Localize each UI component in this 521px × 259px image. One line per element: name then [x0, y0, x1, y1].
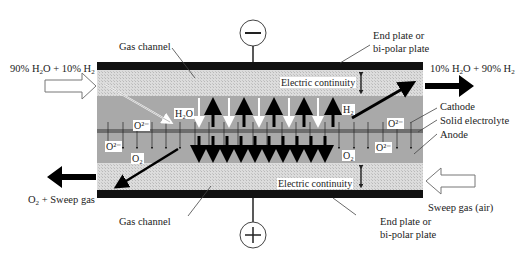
product-composition-label: 10% H2O + 90% H2: [430, 63, 515, 78]
sweep-gas-inlet-arrow-icon: [426, 168, 475, 194]
bottom-gas-channel: [97, 163, 423, 190]
end-plate-bottom-label-line1: End plate or: [380, 216, 431, 228]
o2-outlet-arrow-icon: [47, 166, 96, 188]
sweep-gas-text: + Sweep gas: [39, 194, 95, 205]
oxide-ion-tag-anode-right: O²⁻: [375, 142, 392, 153]
o2-text: O: [28, 194, 36, 205]
electric-continuity-top-label: Electric continuity: [280, 77, 356, 88]
o2-species-tag-right: O₂: [342, 150, 355, 161]
product-outlet-arrow-icon: [425, 75, 474, 97]
cathode-label: Cathode: [440, 101, 475, 113]
feed-h2o-pct: 90%: [10, 63, 29, 74]
oxide-ion-tag-cathode-right: O²⁻: [387, 118, 404, 129]
end-plate-top-label-line1: End plate or: [373, 30, 424, 42]
feed-composition-label: 90% H2O + 10% H2: [10, 63, 95, 78]
gas-channel-top-label: Gas channel: [119, 41, 171, 53]
end-plate-bottom-label-line2: bi-polar plate: [380, 229, 436, 241]
o2-sweep-outlet-label: O2 + Sweep gas: [28, 194, 95, 209]
h2-species-tag: H₂: [342, 104, 355, 115]
electric-continuity-bottom-label: Electric continuity: [277, 178, 353, 189]
solid-electrolyte-label: Solid electrolyte: [440, 115, 509, 127]
positive-terminal-icon: [240, 198, 266, 248]
oxide-ion-tag-cathode-left: O²⁻: [133, 120, 150, 131]
negative-terminal-icon: [240, 20, 266, 62]
anode-label: Anode: [440, 129, 468, 141]
top-end-plate: [97, 62, 423, 70]
top-gas-channel: [97, 70, 423, 96]
sweep-gas-inlet-label: Sweep gas (air): [428, 202, 493, 214]
h2o-species-tag: H₂O: [174, 108, 194, 119]
feed-h2-pct: 10%: [62, 63, 81, 74]
product-h2o-pct: 10%: [430, 63, 449, 74]
gas-channel-bottom-label: Gas channel: [119, 216, 171, 228]
end-plate-top-label-line2: bi-polar plate: [373, 43, 429, 55]
oxide-ion-tag-anode-left: O²⁻: [105, 141, 122, 152]
bottom-end-plate: [97, 190, 423, 198]
o2-species-tag-left: O₂: [131, 153, 144, 164]
product-h2-pct: 90%: [482, 63, 501, 74]
